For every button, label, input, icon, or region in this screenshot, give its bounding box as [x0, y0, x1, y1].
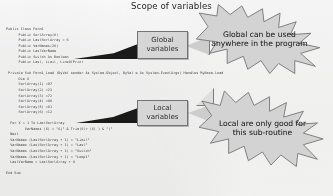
starburst-global-note: Global can be used anywhere in the progr…: [186, 3, 333, 75]
callout-box-local-variables: Local variables: [137, 100, 188, 126]
starburst-global-line2: anywhere in the program: [199, 39, 320, 48]
callout-box-local-line2: variables: [147, 113, 179, 122]
starburst-local-line2: this sub-routine: [205, 128, 321, 137]
starburst-local-note: Local are only good for this sub-routine: [192, 88, 333, 168]
code-line: End Sub: [6, 171, 333, 177]
callout-box-global-variables: Global variables: [137, 31, 188, 59]
starburst-global-text: Global can be used anywhere in the progr…: [199, 30, 320, 49]
starburst-local-text: Local are only good for this sub-routine: [205, 119, 321, 138]
page-title: Scope of variables: [131, 1, 212, 11]
starburst-local-line1: Local are only good for: [205, 119, 321, 128]
callout-box-local-line1: Local: [153, 104, 171, 113]
callout-box-global-line1: Global: [151, 36, 173, 45]
callout-box-global-line2: variables: [147, 45, 179, 54]
starburst-global-line1: Global can be used: [199, 30, 320, 39]
